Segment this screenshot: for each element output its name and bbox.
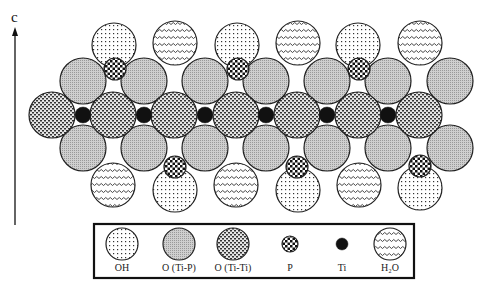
legend-label: O (Ti-Ti) bbox=[215, 262, 252, 274]
p-atom-icon bbox=[164, 156, 186, 178]
o-ti-ti-atom-icon bbox=[151, 92, 197, 138]
legend-item-otiti: O (Ti-Ti) bbox=[215, 228, 252, 274]
o-ti-ti-atom-icon bbox=[213, 92, 259, 138]
legend-label: OH bbox=[115, 262, 129, 273]
o-ti-ti-atom-icon bbox=[396, 92, 442, 138]
p-atom-icon bbox=[409, 155, 431, 177]
h2o-molecule-icon bbox=[337, 163, 381, 207]
legend-item-ti: Ti bbox=[336, 238, 348, 273]
oh-atom-icon bbox=[106, 228, 138, 260]
ti-atom-icon bbox=[75, 107, 91, 123]
atoms-layer bbox=[29, 21, 473, 212]
legend-label: P bbox=[287, 262, 293, 273]
o-ti-ti-atom-icon bbox=[274, 92, 320, 138]
legend-label: Ti bbox=[338, 262, 347, 273]
c-axis: c bbox=[11, 9, 18, 225]
p-atom-icon bbox=[286, 156, 308, 178]
ti-atom-icon bbox=[380, 107, 396, 123]
legend-item-otip: O (Ti-P) bbox=[162, 228, 196, 274]
legend-label: H₂O bbox=[381, 262, 399, 273]
h2o-molecule-icon bbox=[91, 163, 135, 207]
h2o-molecule-icon bbox=[398, 21, 442, 65]
p-atom-icon bbox=[348, 58, 370, 80]
h2o-molecule-icon bbox=[214, 163, 258, 207]
p-atom-icon bbox=[282, 236, 298, 252]
ti-atom-icon bbox=[197, 107, 213, 123]
arrow-up-icon bbox=[12, 27, 18, 36]
o-ti-ti-atom-icon bbox=[335, 92, 381, 138]
o-ti-p-atom-icon bbox=[163, 228, 195, 260]
legend-box bbox=[94, 224, 414, 278]
legend-items: OHO (Ti-P)O (Ti-Ti)PTiH₂O bbox=[106, 228, 406, 274]
legend-label: O (Ti-P) bbox=[162, 262, 196, 274]
legend-item-p: P bbox=[282, 236, 298, 273]
c-axis-label: c bbox=[11, 9, 18, 25]
ti-atom-icon bbox=[136, 107, 152, 123]
ti-atom-icon bbox=[336, 238, 348, 250]
legend: OHO (Ti-P)O (Ti-Ti)PTiH₂O bbox=[94, 224, 414, 278]
h2o-molecule-icon bbox=[276, 21, 320, 65]
o-ti-ti-atom-icon bbox=[90, 92, 136, 138]
o-ti-ti-atom-icon bbox=[29, 92, 75, 138]
o-ti-ti-atom-icon bbox=[217, 228, 249, 260]
legend-item-oh: OH bbox=[106, 228, 138, 273]
legend-item-h2o: H₂O bbox=[374, 228, 406, 273]
p-atom-icon bbox=[104, 58, 126, 80]
ti-atom-icon bbox=[319, 107, 335, 123]
h2o-molecule-icon bbox=[374, 228, 406, 260]
p-atom-icon bbox=[227, 58, 249, 80]
h2o-molecule-icon bbox=[153, 21, 197, 65]
crystal-structure-diagram: c OHO (Ti-P)O (Ti-Ti)PTiH₂O bbox=[0, 0, 488, 297]
ti-atom-icon bbox=[258, 107, 274, 123]
